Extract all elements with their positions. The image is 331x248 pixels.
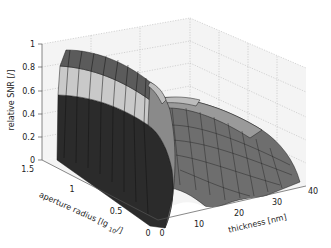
y-tick-3: 0 (145, 229, 150, 238)
y-tick-1: 1 (69, 185, 74, 194)
z-tick-1: 0.2 (22, 133, 35, 142)
z-tick-4: 0.8 (22, 63, 35, 72)
x-tick-1: 10 (194, 220, 204, 229)
x-tick-3: 30 (272, 198, 282, 207)
x-tick-2: 20 (234, 209, 244, 218)
x-tick-4: 40 (308, 187, 318, 196)
z-axis-label: relative SNR [/] (7, 70, 16, 131)
y-tick-0: 1.5 (21, 165, 34, 174)
surface-plot: 0 0.2 0.4 0.6 0.8 1 relative SNR [/] 1.5… (0, 0, 331, 248)
z-axis-ticks: 0 0.2 0.4 0.6 0.8 1 (22, 40, 42, 165)
z-tick-0: 0 (30, 156, 35, 165)
z-tick-2: 0.4 (22, 110, 35, 119)
z-tick-3: 0.6 (22, 87, 35, 96)
y-tick-2: 0.5 (110, 207, 123, 216)
z-tick-5: 1 (30, 40, 35, 49)
x-tick-0: 0 (159, 229, 164, 238)
